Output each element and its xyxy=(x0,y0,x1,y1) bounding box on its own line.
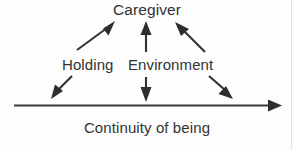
arrow-environment-to-caregiver-icon xyxy=(141,21,152,52)
environment-label: Environment xyxy=(128,56,213,73)
continuity-of-being-label: Continuity of being xyxy=(0,119,294,136)
downward-arrow-group xyxy=(51,76,233,102)
holding-label: Holding xyxy=(62,56,114,73)
diagram-canvas: Caregiver Holding Environment Continuity… xyxy=(0,0,294,150)
continuity-axis xyxy=(14,100,282,112)
arrow-holding-to-caregiver-icon xyxy=(77,21,115,50)
arrow-right-support-to-caregiver-icon xyxy=(175,22,205,52)
continuity-axis-arrowhead-icon xyxy=(268,100,282,112)
caregiver-label: Caregiver xyxy=(0,1,294,19)
arrow-holding-to-continuity-icon xyxy=(51,76,72,99)
scan-edge-divider xyxy=(291,0,292,150)
upward-arrow-group xyxy=(77,21,205,52)
arrow-environment-to-continuity-icon xyxy=(141,77,152,102)
arrow-right-support-to-continuity-icon xyxy=(209,76,233,99)
